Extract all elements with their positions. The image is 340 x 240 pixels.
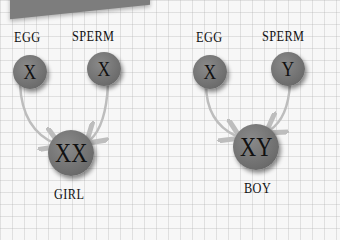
sperm-chromosome-right: Y [271, 52, 305, 86]
sperm-label-left: SPERM [72, 28, 114, 45]
sperm-chromosome-left: X [87, 52, 121, 86]
egg-chromosome-left: X [13, 55, 47, 89]
egg-label-right: EGG [196, 29, 223, 46]
result-chromosomes-left: XX [48, 130, 94, 176]
girl-label: GIRL [54, 186, 84, 203]
boy-label: BOY [244, 180, 271, 197]
egg-label-left: EGG [14, 29, 41, 46]
result-chromosomes-right: XY [233, 124, 279, 170]
egg-chromosome-right: X [193, 55, 227, 89]
sperm-label-right: SPERM [262, 28, 304, 45]
